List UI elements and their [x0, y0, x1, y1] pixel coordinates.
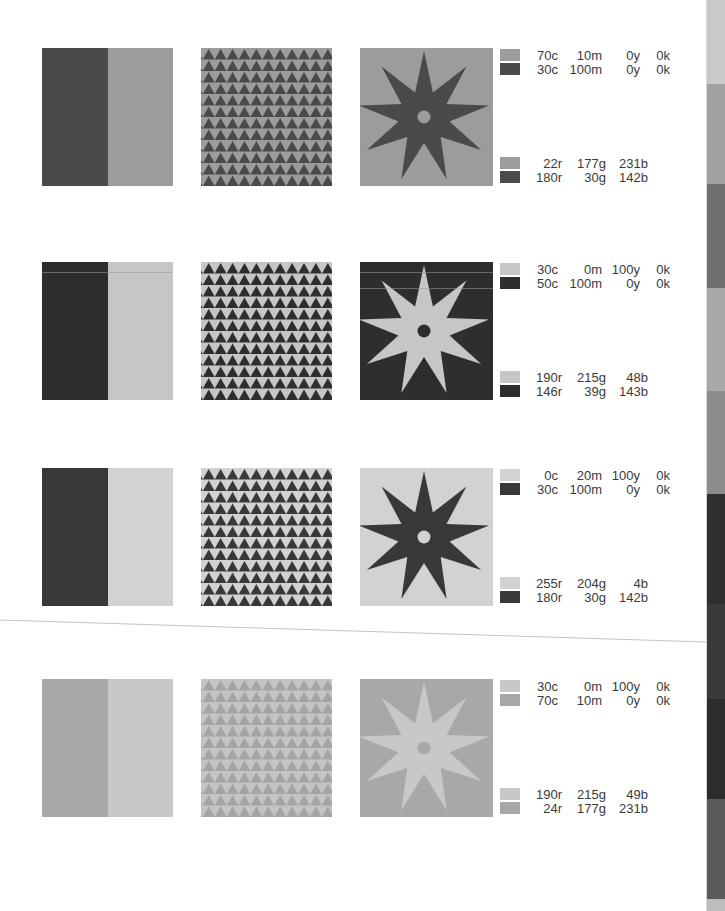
value-r: 180r: [528, 591, 562, 604]
legend-entry-cmyk-top: 30c0m100y0k: [500, 262, 690, 276]
color-swatch: [500, 277, 520, 289]
sidebar-color-band: [707, 494, 725, 604]
value-b: 4b: [606, 577, 648, 590]
split-square: [42, 468, 173, 606]
value-r: 22r: [528, 157, 562, 170]
value-r: 190r: [528, 788, 562, 801]
value-k: 0k: [640, 694, 670, 707]
sidebar-color-band: [707, 84, 725, 184]
value-c: 30c: [528, 483, 558, 496]
value-g: 30g: [562, 591, 606, 604]
value-r: 24r: [528, 802, 562, 815]
legend-entry-cmyk-bottom: 30c100m0y0k: [500, 482, 690, 496]
value-b: 48b: [606, 371, 648, 384]
star-figure: [360, 468, 493, 606]
color-pair-row: 30c0m100y0k70c10m0y0k190r215g49b24r177g2…: [0, 679, 690, 819]
value-c: 30c: [528, 680, 558, 693]
split-right-half: [108, 48, 174, 186]
value-y: 100y: [602, 263, 640, 276]
value-c: 70c: [528, 49, 558, 62]
scan-streak: [42, 272, 173, 273]
color-swatch: [500, 63, 520, 75]
value-r: 190r: [528, 371, 562, 384]
value-y: 100y: [602, 680, 640, 693]
triangle-pattern: [201, 262, 332, 400]
value-g: 39g: [562, 385, 606, 398]
color-swatch: [500, 171, 520, 183]
color-swatch: [500, 263, 520, 275]
split-right-half: [108, 468, 174, 606]
legend-entry-cmyk-top: 30c0m100y0k: [500, 679, 690, 693]
color-swatch: [500, 788, 520, 800]
split-left-half: [42, 679, 108, 817]
legend-entry-rgb-top: 255r204g4b: [500, 576, 690, 590]
color-strip-sidebar: [707, 0, 725, 911]
sidebar-color-band: [707, 391, 725, 494]
legend-entry-rgb-top: 190r215g48b: [500, 370, 690, 384]
sidebar-color-band: [707, 0, 725, 84]
value-m: 10m: [558, 694, 602, 707]
color-swatch: [500, 577, 520, 589]
color-swatch: [500, 680, 520, 692]
triangle-pattern: [201, 468, 332, 606]
value-m: 100m: [558, 483, 602, 496]
value-b: 142b: [606, 591, 648, 604]
value-g: 30g: [562, 171, 606, 184]
legend-entry-rgb-bottom: 146r39g143b: [500, 384, 690, 398]
value-c: 70c: [528, 694, 558, 707]
value-r: 180r: [528, 171, 562, 184]
value-m: 100m: [558, 277, 602, 290]
color-legend: 0c20m100y0k30c100m0y0k255r204g4b180r30g1…: [500, 468, 690, 608]
value-r: 146r: [528, 385, 562, 398]
color-swatch: [500, 157, 520, 169]
color-pair-row: 70c10m0y0k30c100m0y0k22r177g231b180r30g1…: [0, 48, 690, 188]
split-left-half: [42, 468, 108, 606]
color-pair-row: 30c0m100y0k50c100m0y0k190r215g48b146r39g…: [0, 262, 690, 402]
color-swatch: [500, 469, 520, 481]
value-b: 231b: [606, 157, 648, 170]
value-y: 0y: [602, 63, 640, 76]
legend-entry-rgb-top: 22r177g231b: [500, 156, 690, 170]
value-b: 231b: [606, 802, 648, 815]
value-b: 142b: [606, 171, 648, 184]
value-c: 50c: [528, 277, 558, 290]
sidebar-color-band: [707, 184, 725, 288]
star-figure: [360, 262, 493, 400]
split-square: [42, 679, 173, 817]
value-k: 0k: [640, 469, 670, 482]
value-c: 0c: [528, 469, 558, 482]
color-pair-row: 0c20m100y0k30c100m0y0k255r204g4b180r30g1…: [0, 468, 690, 608]
fold-line: [0, 612, 706, 652]
value-g: 177g: [562, 802, 606, 815]
triangle-pattern: [201, 48, 332, 186]
sidebar-color-band: [707, 288, 725, 391]
value-m: 0m: [558, 680, 602, 693]
sidebar-color-band: [707, 899, 725, 911]
value-y: 0y: [602, 483, 640, 496]
color-swatch: [500, 385, 520, 397]
star-figure: [360, 679, 493, 817]
value-k: 0k: [640, 63, 670, 76]
legend-entry-cmyk-bottom: 50c100m0y0k: [500, 276, 690, 290]
sidebar-color-band: [707, 799, 725, 899]
split-left-half: [42, 48, 108, 186]
star-figure: [360, 48, 493, 186]
color-swatch: [500, 49, 520, 61]
value-k: 0k: [640, 263, 670, 276]
color-swatch: [500, 802, 520, 814]
split-square: [42, 262, 173, 400]
color-legend: 30c0m100y0k50c100m0y0k190r215g48b146r39g…: [500, 262, 690, 402]
legend-entry-cmyk-top: 0c20m100y0k: [500, 468, 690, 482]
sidebar-color-band: [707, 604, 725, 699]
value-g: 215g: [562, 788, 606, 801]
split-right-half: [108, 262, 174, 400]
value-c: 30c: [528, 63, 558, 76]
value-g: 215g: [562, 371, 606, 384]
value-k: 0k: [640, 483, 670, 496]
color-swatch: [500, 483, 520, 495]
value-r: 255r: [528, 577, 562, 590]
legend-entry-cmyk-top: 70c10m0y0k: [500, 48, 690, 62]
value-y: 100y: [602, 469, 640, 482]
scan-streak: [360, 288, 493, 289]
value-m: 0m: [558, 263, 602, 276]
